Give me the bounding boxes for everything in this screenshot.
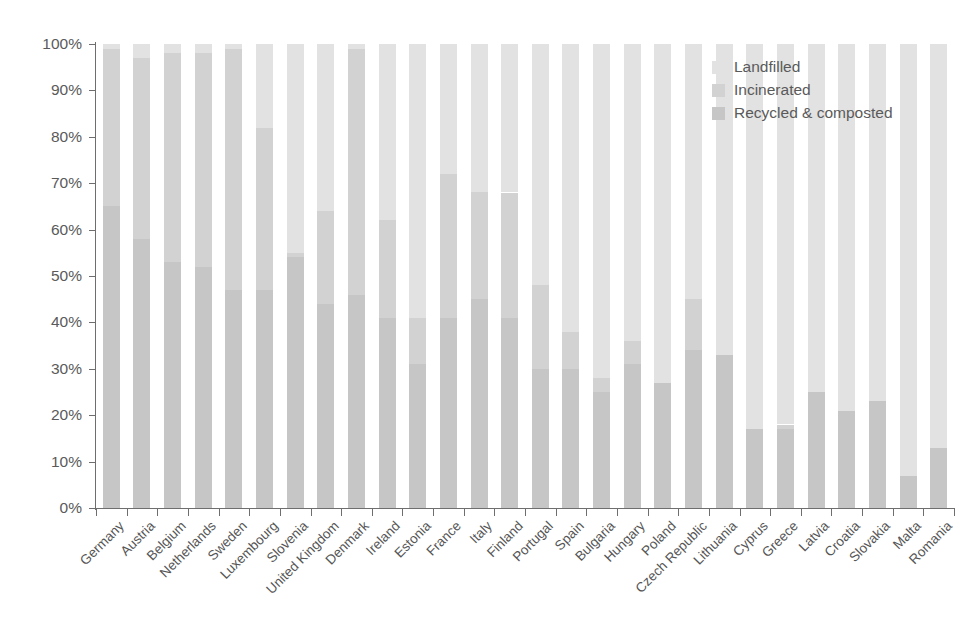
bar-segment[interactable] (409, 44, 426, 318)
bar[interactable] (593, 44, 610, 508)
bar[interactable] (624, 44, 641, 508)
bar-segment[interactable] (593, 392, 610, 508)
bar-segment[interactable] (532, 369, 549, 508)
bar-segment[interactable] (195, 44, 212, 53)
bar-segment[interactable] (348, 295, 365, 508)
bar[interactable] (471, 44, 488, 508)
bar-segment[interactable] (317, 304, 334, 508)
bar-segment[interactable] (440, 318, 457, 508)
bar-segment[interactable] (900, 476, 917, 508)
bar[interactable] (317, 44, 334, 508)
bar-segment[interactable] (471, 44, 488, 192)
bar-segment[interactable] (654, 44, 671, 383)
bar[interactable] (287, 44, 304, 508)
bar[interactable] (409, 44, 426, 508)
bar-segment[interactable] (593, 44, 610, 378)
bar-segment[interactable] (808, 392, 825, 508)
bar-segment[interactable] (685, 350, 702, 508)
bar[interactable] (225, 44, 242, 508)
bar-segment[interactable] (287, 253, 304, 258)
bar-segment[interactable] (624, 341, 641, 364)
bar-segment[interactable] (225, 44, 242, 49)
bar-segment[interactable] (103, 44, 120, 49)
bar-segment[interactable] (348, 49, 365, 295)
bar[interactable] (532, 44, 549, 508)
bar-segment[interactable] (348, 44, 365, 49)
bar[interactable] (379, 44, 396, 508)
bar-segment[interactable] (501, 193, 518, 318)
bar-segment[interactable] (501, 318, 518, 508)
bar[interactable] (440, 44, 457, 508)
bar-segment[interactable] (624, 364, 641, 508)
bar-segment[interactable] (195, 53, 212, 266)
bar-segment[interactable] (746, 429, 763, 508)
x-axis-tick-mark (556, 509, 557, 516)
bar-segment[interactable] (379, 220, 396, 317)
bar[interactable] (164, 44, 181, 508)
x-axis-tick-mark (341, 509, 342, 516)
bar-segment[interactable] (103, 49, 120, 207)
bar-segment[interactable] (471, 299, 488, 508)
bar-segment[interactable] (409, 318, 426, 364)
bar-segment[interactable] (225, 49, 242, 290)
bar-segment[interactable] (164, 262, 181, 508)
bar-segment[interactable] (379, 44, 396, 220)
legend-item[interactable]: Recycled & composted (712, 102, 942, 124)
bar-segment[interactable] (869, 401, 886, 508)
bar-segment[interactable] (133, 44, 150, 58)
bar-segment[interactable] (685, 299, 702, 350)
x-axis-tick-mark (617, 509, 618, 516)
bar-segment[interactable] (103, 206, 120, 508)
bar-segment[interactable] (562, 332, 579, 369)
x-axis-tick-mark (219, 509, 220, 516)
bar[interactable] (133, 44, 150, 508)
bar-segment[interactable] (317, 44, 334, 211)
bar-segment[interactable] (471, 192, 488, 299)
bar[interactable] (103, 44, 120, 508)
bar-segment[interactable] (440, 44, 457, 174)
bar-segment[interactable] (593, 378, 610, 392)
bar[interactable] (562, 44, 579, 508)
bar-segment[interactable] (532, 44, 549, 285)
bar-segment[interactable] (777, 429, 794, 508)
bar[interactable] (195, 44, 212, 508)
bar-segment[interactable] (501, 44, 518, 192)
bar[interactable] (685, 44, 702, 508)
bar[interactable] (501, 44, 518, 508)
bar-segment[interactable] (440, 174, 457, 318)
bar-segment[interactable] (195, 267, 212, 508)
x-axis-tick-mark (954, 509, 955, 516)
bar-segment[interactable] (777, 425, 794, 430)
bar-segment[interactable] (287, 257, 304, 508)
y-axis-tick-mark (89, 90, 96, 91)
bar-segment[interactable] (716, 355, 733, 508)
bar-segment[interactable] (256, 128, 273, 290)
bar-segment[interactable] (624, 44, 641, 341)
legend-item[interactable]: Landfilled (712, 56, 942, 78)
bar-segment[interactable] (838, 411, 855, 508)
bar-segment[interactable] (287, 44, 304, 253)
bar-segment[interactable] (256, 290, 273, 508)
bar-segment[interactable] (225, 290, 242, 508)
bar-segment[interactable] (133, 58, 150, 239)
bar[interactable] (348, 44, 365, 508)
x-axis-category-label: Germany (78, 519, 127, 568)
bar-segment[interactable] (685, 44, 702, 299)
bar[interactable] (654, 44, 671, 508)
y-axis-tick-mark (89, 462, 96, 463)
bar-segment[interactable] (256, 44, 273, 128)
bar-segment[interactable] (562, 44, 579, 332)
bar-segment[interactable] (164, 44, 181, 53)
bar-segment[interactable] (379, 318, 396, 508)
y-axis-tick-label: 20% (30, 407, 82, 423)
bar[interactable] (256, 44, 273, 508)
bar-segment[interactable] (409, 364, 426, 508)
legend-item[interactable]: Incinerated (712, 79, 942, 101)
bar-segment[interactable] (654, 383, 671, 508)
bar-segment[interactable] (532, 285, 549, 369)
bar-segment[interactable] (133, 239, 150, 508)
bar-segment[interactable] (562, 369, 579, 508)
bar-segment[interactable] (317, 211, 334, 304)
bar-segment[interactable] (930, 448, 947, 508)
bar-segment[interactable] (164, 53, 181, 262)
